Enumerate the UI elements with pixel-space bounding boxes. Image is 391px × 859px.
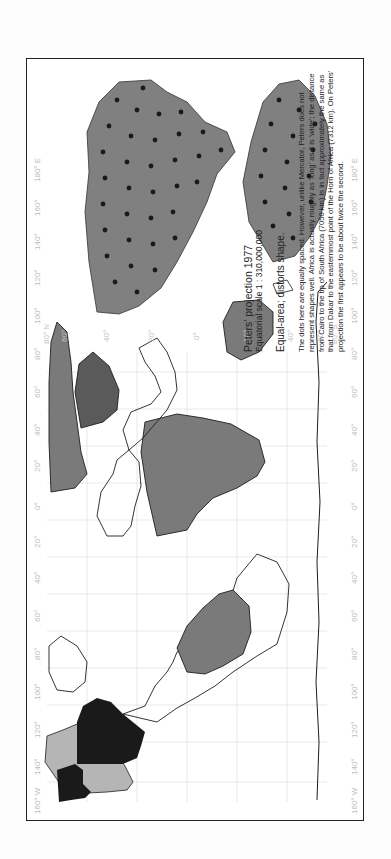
lon-label: 180° E — [350, 158, 359, 182]
figure-property: Equal-area; distorts shape. — [275, 62, 287, 352]
rotated-map-page: 160° W 140° 120° 100° 80° 60° 40° 20° 0°… — [27, 59, 364, 821]
europe-outline — [97, 450, 141, 536]
lat-label: 20° — [147, 330, 156, 342]
lon-label: 100° — [350, 307, 359, 324]
lon-label: 140° — [350, 233, 359, 250]
lon-label: 120° — [33, 269, 42, 286]
longitude-labels-top: 160° W 140° 120° 100° 80° 60° 40° 20° 0°… — [33, 158, 42, 814]
greenland-outline — [49, 636, 87, 692]
lat-label: 80° N — [42, 324, 51, 344]
lon-label: 140° — [350, 758, 359, 775]
lon-label: 160° — [33, 199, 42, 216]
figure-description: The dots here are equally spaced. Howeve… — [297, 62, 346, 352]
lon-label: 40° — [350, 572, 359, 584]
lon-label: 0° — [33, 502, 42, 510]
lon-label: 40° — [33, 424, 42, 436]
lat-label: 60° — [60, 330, 69, 342]
lon-label: 20° — [33, 460, 42, 472]
south-america — [177, 590, 251, 674]
lon-label: 100° — [33, 307, 42, 324]
lon-label: 0° — [350, 502, 359, 510]
lon-label: 60° — [350, 610, 359, 622]
figure-title: Peters' projection 1977 — [242, 62, 254, 352]
lon-label: 40° — [33, 572, 42, 584]
map-figure-frame: 160° W 140° 120° 100° 80° 60° 40° 20° 0°… — [26, 58, 364, 821]
longitude-labels-bottom: 160° W 140° 120° 100° 80° 60° 40° 20° 0°… — [350, 158, 359, 814]
lon-label: 80° — [33, 648, 42, 660]
lon-label: 60° — [33, 610, 42, 622]
lon-label: 160° — [350, 199, 359, 216]
lon-label: 160° W — [33, 787, 42, 814]
china — [75, 352, 119, 428]
lon-label: 120° — [350, 269, 359, 286]
lat-label: 40° — [102, 330, 111, 342]
lon-label: 160° W — [350, 787, 359, 814]
lon-label: 60° — [350, 386, 359, 398]
lon-label: 40° — [350, 424, 359, 436]
lon-label: 120° — [33, 721, 42, 738]
africa — [141, 414, 265, 536]
lon-label: 80° — [350, 648, 359, 660]
lon-label: 20° — [350, 460, 359, 472]
lon-label: 20° — [33, 536, 42, 548]
lon-label: 140° — [33, 233, 42, 250]
figure-scale: Equatorial scale 1 : 310,000,000 — [254, 62, 265, 352]
africa-inset — [85, 80, 235, 314]
lon-label: 180° E — [33, 158, 42, 182]
lon-label: 60° — [33, 386, 42, 398]
lon-label: 20° — [350, 536, 359, 548]
antarctica-coastline — [316, 282, 327, 800]
lon-label: 100° — [350, 683, 359, 700]
lat-label: 0° — [192, 332, 201, 340]
figure-caption: Peters' projection 1977 Equatorial scale… — [242, 62, 346, 352]
lon-label: 120° — [350, 721, 359, 738]
lon-label: 80° — [350, 348, 359, 360]
lon-label: 80° — [33, 348, 42, 360]
usa — [77, 698, 145, 764]
lon-label: 140° — [33, 758, 42, 775]
lon-label: 100° — [33, 683, 42, 700]
